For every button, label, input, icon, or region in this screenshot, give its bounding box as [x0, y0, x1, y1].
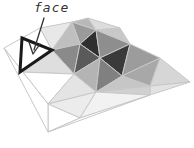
face-label: face — [34, 0, 69, 15]
mesh-faces — [4, 18, 190, 132]
mesh-diagram — [0, 0, 194, 148]
